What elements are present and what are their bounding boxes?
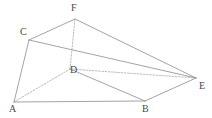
vertex-label-e: E xyxy=(199,81,205,91)
vertex-label-d: D xyxy=(70,65,77,75)
geometry-figure: ABCDEF xyxy=(0,0,212,118)
geometry-diagram-canvas xyxy=(0,0,212,118)
edge-AB xyxy=(14,101,145,102)
solid-edge-group xyxy=(14,19,196,102)
edge-DF xyxy=(70,19,75,69)
edge-BE xyxy=(145,78,196,101)
edge-FE xyxy=(75,19,196,78)
edge-CF xyxy=(29,19,75,40)
edge-AD xyxy=(14,69,70,102)
vertex-label-b: B xyxy=(142,104,149,114)
hidden-edge-group xyxy=(14,19,196,102)
vertex-label-a: A xyxy=(9,104,16,114)
vertex-label-f: F xyxy=(71,3,77,13)
vertex-label-c: C xyxy=(20,27,27,37)
edge-AC xyxy=(14,40,29,102)
